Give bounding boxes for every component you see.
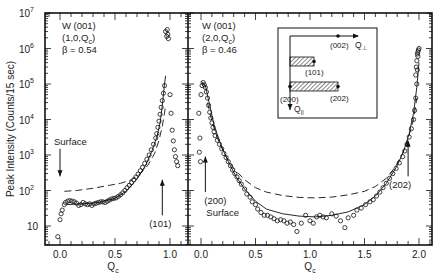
- reciprocal-point: [312, 60, 316, 64]
- data-point: [343, 226, 347, 230]
- data-point: [172, 148, 176, 152]
- reciprocal-point: [336, 34, 340, 38]
- inset-box: [278, 28, 377, 118]
- inset-point-label: (101): [305, 68, 324, 77]
- data-point: [256, 207, 260, 211]
- annotation-beta: β = 0.46: [202, 44, 237, 55]
- data-point: [346, 216, 350, 220]
- y-tick-label: 106: [19, 42, 34, 55]
- data-points: [56, 28, 180, 239]
- y-tick-label: 103: [19, 148, 34, 161]
- annotation-beta: β = 0.54: [62, 44, 97, 55]
- data-point: [170, 128, 174, 132]
- data-point: [414, 73, 418, 77]
- arrow-head-icon: [160, 180, 165, 186]
- arrow-label-surface: Surface: [206, 207, 239, 218]
- reciprocal-point: [288, 85, 292, 89]
- data-point: [253, 203, 257, 207]
- arrow-label: Surface: [54, 136, 87, 147]
- x-tick-label: 0.0: [194, 249, 208, 260]
- data-point: [56, 235, 60, 239]
- arrow-label: (202): [389, 179, 411, 190]
- data-point: [415, 59, 419, 63]
- reciprocal-point: [336, 85, 340, 89]
- data-point: [338, 219, 342, 223]
- inset-point-label: (202): [330, 94, 349, 103]
- inset-diagram: (002)(101)(200)(202)Q⊥Q||: [278, 28, 377, 118]
- left-panel: 0.00.51.0QcW (001)(1,0,Qc)β = 0.54Surfac…: [49, 13, 181, 274]
- x-tick-label: 0.5: [108, 249, 122, 260]
- y-tick-label: 105: [19, 77, 34, 90]
- data-point: [58, 218, 62, 222]
- x-tick-label: 0.0: [53, 249, 67, 260]
- data-point: [197, 150, 201, 154]
- data-point: [311, 221, 315, 225]
- annotation-sample: W (001): [62, 20, 96, 31]
- x-tick-label: 1.0: [303, 249, 317, 260]
- annotation-sample: W (001): [202, 20, 236, 31]
- data-point: [299, 221, 303, 225]
- inset-rod-101: [290, 57, 314, 66]
- data-point: [352, 213, 356, 217]
- inset-rod-202: [290, 82, 338, 91]
- y-axis-label: Peak Intensity (Counts/15 sec): [5, 61, 16, 197]
- data-point: [292, 222, 296, 226]
- y-tick-label: 102: [19, 184, 34, 197]
- x-axis-label: Qc: [304, 261, 316, 274]
- y-tick-label: 104: [19, 113, 34, 126]
- y-tick-label: 107: [19, 6, 34, 19]
- x-axis-label: Qc: [107, 261, 119, 274]
- arrow-label: (101): [149, 218, 171, 229]
- inset-point-label: (200): [280, 95, 299, 104]
- data-point: [198, 160, 202, 164]
- arrow-head-icon: [203, 157, 208, 163]
- x-tick-label: 0.5: [249, 249, 263, 260]
- arrow-head-icon: [58, 170, 63, 176]
- data-point: [199, 93, 203, 97]
- data-point: [173, 155, 177, 159]
- x-tick-label: 2.0: [412, 249, 426, 260]
- data-point: [60, 208, 64, 212]
- inset-point-label: (002): [330, 41, 349, 50]
- data-point: [176, 164, 180, 168]
- data-point: [198, 136, 202, 140]
- data-point: [175, 160, 179, 164]
- data-point: [295, 229, 299, 233]
- arrow-label: (200): [204, 195, 226, 206]
- data-point: [171, 139, 175, 143]
- x-tick-label: 1.5: [358, 249, 372, 260]
- x-tick-label: 1.0: [163, 249, 177, 260]
- data-point: [169, 111, 173, 115]
- peak-intensity-figure: 10102103104105106107 0.00.51.0QcW (001)(…: [0, 0, 440, 278]
- data-point: [197, 111, 201, 115]
- y-tick-label: 10: [27, 221, 39, 232]
- data-point: [168, 93, 172, 97]
